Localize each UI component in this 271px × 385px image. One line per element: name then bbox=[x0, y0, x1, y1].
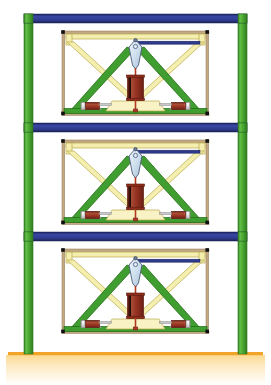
roof-beam bbox=[24, 14, 247, 23]
story-3-bay bbox=[61, 30, 209, 115]
right-column bbox=[238, 14, 247, 354]
story-2-bay bbox=[61, 139, 209, 224]
level-3-beam bbox=[24, 123, 247, 132]
figure-canvas bbox=[0, 0, 271, 385]
story-1-bay bbox=[61, 248, 209, 333]
level-2-beam bbox=[24, 232, 247, 241]
left-column bbox=[24, 14, 33, 354]
structural-frame-diagram bbox=[0, 0, 271, 385]
ground bbox=[6, 352, 265, 385]
